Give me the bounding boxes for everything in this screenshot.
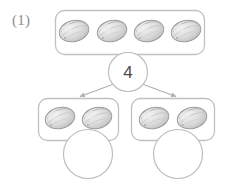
arrow-to-right-part (144, 85, 177, 97)
item-number-label: (1) (12, 12, 30, 29)
whole-group-box (56, 11, 205, 55)
number-bond-diagram (0, 0, 232, 181)
whole-number-value: 4 (123, 63, 132, 83)
left-part-answer-circle[interactable] (64, 130, 113, 179)
worksheet-canvas: (1) 4 (0, 0, 232, 181)
right-part-answer-circle[interactable] (154, 130, 203, 179)
arrow-to-left-part (80, 85, 113, 97)
